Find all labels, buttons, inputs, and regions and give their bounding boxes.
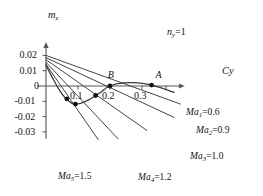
condition-annotation: ny=1 [167, 27, 186, 39]
series-label: Ma2=0.9 [196, 126, 229, 137]
point-label-b: B [108, 70, 114, 80]
x-axis-arrow [179, 83, 185, 88]
y-tick-label: 0.01 [19, 66, 37, 76]
x-axis-label: Cy [222, 66, 234, 77]
series-label: Ma3=1.0 [190, 152, 223, 163]
x-tick-label: 0.3 [134, 91, 147, 101]
y-tick-label: 0 [34, 81, 39, 91]
series-label: Ma4=1.2 [138, 173, 171, 184]
y-tick-label: -0.02 [15, 112, 36, 122]
data-point-marker [93, 93, 98, 98]
y-axis-label: mz [48, 10, 58, 22]
x-tick-label: 0.2 [102, 91, 115, 101]
x-tick-label: 0.1 [70, 91, 83, 101]
data-point-marker [73, 102, 78, 107]
y-tick-label: 0.02 [19, 50, 37, 60]
y-axis-arrow [43, 42, 48, 48]
y-tick-label: -0.01 [15, 96, 36, 106]
data-point-marker [108, 84, 113, 89]
series-path [46, 64, 98, 139]
data-point-marker [149, 83, 154, 88]
series-label: Ma1=0.6 [186, 108, 219, 119]
point-label-a: A [155, 70, 161, 80]
data-point-marker [64, 96, 69, 101]
chart-canvas [0, 0, 263, 196]
y-tick-label: -0.03 [15, 127, 36, 137]
series-label: Ma5=1.5 [58, 172, 91, 183]
chart-figure: mz Cy ny=1 0.10.20.30.020.010-0.01-0.02-… [0, 0, 263, 196]
